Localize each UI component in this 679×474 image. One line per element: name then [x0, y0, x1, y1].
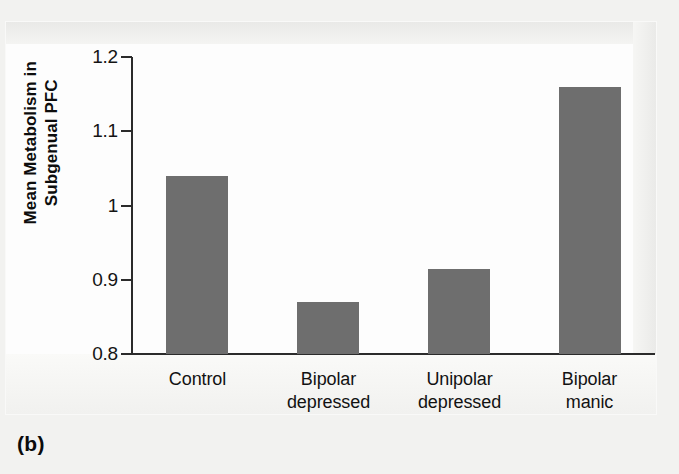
x-axis-label: Bipolardepressed — [263, 368, 394, 413]
y-tick-mark — [121, 130, 132, 132]
bar — [297, 302, 359, 354]
y-tick-label: 1.1 — [62, 121, 118, 140]
bar — [559, 87, 621, 354]
y-tick-label: 0.9 — [62, 270, 118, 289]
y-tick-mark — [121, 56, 132, 58]
x-axis-label-line: Control — [132, 368, 263, 391]
x-axis-label-line: Bipolar — [263, 368, 394, 391]
x-axis-label-line: manic — [524, 391, 655, 414]
x-axis-label-line: Unipolar — [394, 368, 525, 391]
y-axis-title-line-2: Subgenual PFC — [42, 28, 63, 258]
y-tick-mark — [121, 279, 132, 281]
y-axis-title-line-1: Mean Metabolism in — [21, 28, 42, 258]
x-axis-label: Bipolarmanic — [524, 368, 655, 413]
x-axis-label: Control — [132, 368, 263, 391]
y-tick-label: 1 — [62, 196, 118, 215]
bar — [166, 176, 228, 354]
bar — [428, 269, 490, 354]
figure-caption: (b) — [17, 432, 45, 456]
x-axis-label: Unipolardepressed — [394, 368, 525, 413]
x-axis-label-line: depressed — [263, 391, 394, 414]
y-axis-title: Mean Metabolism in Subgenual PFC — [21, 28, 62, 258]
bar-chart: Mean Metabolism in Subgenual PFC 0.80.91… — [0, 0, 679, 474]
x-axis-label-line: Bipolar — [524, 368, 655, 391]
y-tick-label: 0.8 — [62, 344, 118, 363]
y-tick-mark — [121, 205, 132, 207]
y-tick-label: 1.2 — [62, 47, 118, 66]
x-axis-label-line: depressed — [394, 391, 525, 414]
y-tick-mark — [121, 353, 132, 355]
